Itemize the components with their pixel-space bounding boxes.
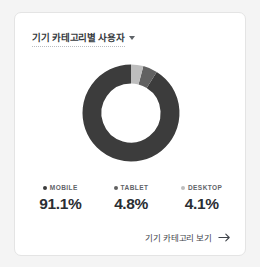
legend-head: DESKTOP [166, 182, 237, 193]
legend-label: TABLET [121, 184, 149, 191]
donut-segment-desktop[interactable] [131, 74, 141, 75]
legend-head: MOBILE [25, 182, 96, 193]
legend-label: DESKTOP [188, 184, 222, 191]
chart-legend: MOBILE 91.1% TABLET 4.8% DESKTOP 4.1% [25, 182, 237, 213]
arrow-right-icon [218, 233, 231, 242]
donut-chart[interactable] [77, 57, 185, 169]
footer-link-label: 기기 카테고리 보기 [145, 231, 212, 243]
legend-value: 91.1% [25, 195, 96, 213]
legend-item-tablet[interactable]: TABLET 4.8% [96, 182, 167, 213]
chevron-down-icon[interactable] [129, 36, 135, 40]
view-device-category-link[interactable]: 기기 카테고리 보기 [145, 231, 231, 243]
legend-dot-icon [114, 186, 118, 190]
donut-segment-mobile[interactable] [92, 74, 170, 152]
legend-head: TABLET [96, 182, 167, 193]
legend-item-desktop[interactable]: DESKTOP 4.1% [166, 182, 237, 213]
legend-dot-icon [43, 186, 47, 190]
device-category-card: 기기 카테고리별 사용자 MOBILE 91.1% TABLET [14, 12, 246, 256]
page-background: 기기 카테고리별 사용자 MOBILE 91.1% TABLET [0, 0, 260, 267]
page-title[interactable]: 기기 카테고리별 사용자 [32, 32, 125, 47]
legend-value: 4.8% [96, 195, 167, 213]
donut-chart-container [15, 57, 246, 169]
legend-label: MOBILE [50, 184, 78, 191]
donut-segment-tablet[interactable] [141, 75, 152, 80]
legend-dot-icon [181, 186, 185, 190]
legend-value: 4.1% [166, 195, 237, 213]
legend-item-mobile[interactable]: MOBILE 91.1% [25, 182, 96, 213]
card-header[interactable]: 기기 카테고리별 사용자 [32, 32, 135, 47]
